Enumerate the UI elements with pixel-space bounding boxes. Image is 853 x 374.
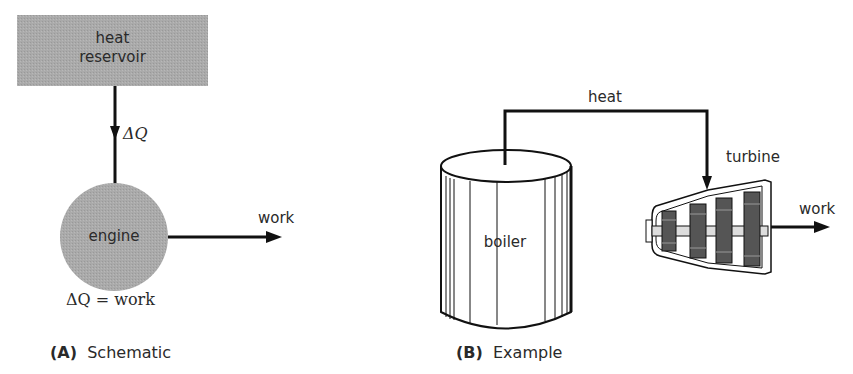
work-label-b: work <box>799 200 835 218</box>
caption-a-text: Schematic <box>87 343 171 362</box>
reservoir-label-line2: reservoir <box>17 48 208 67</box>
caption-a-letter: (A) <box>50 343 77 362</box>
down-arrow-icon <box>702 176 712 190</box>
delta-q-label: ΔQ <box>123 124 148 143</box>
turbine <box>646 180 771 274</box>
down-arrow-icon <box>110 126 120 140</box>
caption-b-letter: (B) <box>456 343 483 362</box>
engine-label: engine <box>60 227 168 245</box>
caption-a: (A) Schematic <box>50 343 171 362</box>
right-arrow-icon <box>266 231 282 243</box>
caption-b-text: Example <box>493 343 562 362</box>
boiler-label: boiler <box>455 233 555 251</box>
caption-b: (B) Example <box>456 343 562 362</box>
turbine-label: turbine <box>726 148 780 166</box>
reservoir-label-line1: heat <box>17 29 208 48</box>
work-label-a: work <box>258 209 294 227</box>
heat-label: heat <box>588 88 622 106</box>
right-arrow-icon <box>814 221 830 233</box>
reservoir-label: heat reservoir <box>17 29 208 67</box>
equation-label: ΔQ = work <box>66 290 155 309</box>
